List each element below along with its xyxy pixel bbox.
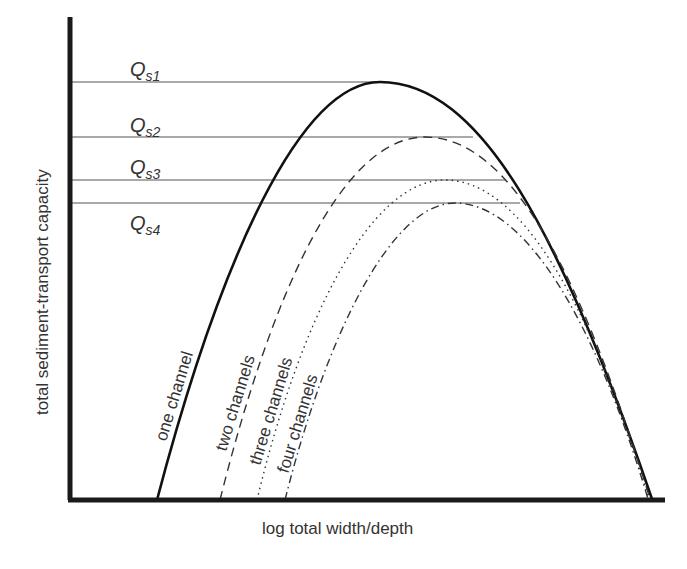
qs1-label: Qs1 xyxy=(130,58,160,84)
qs2-label: Qs2 xyxy=(130,114,161,140)
qs4-label: Qs4 xyxy=(130,212,161,238)
label-two-channels: two channels xyxy=(212,353,259,453)
y-axis-label: total sediment-transport capacity xyxy=(33,169,52,415)
label-one-channel: one channel xyxy=(152,349,197,443)
diagram: Qs1 Qs2 Qs3 Qs4 one channel two channels… xyxy=(0,0,687,569)
qs-labels: Qs1 Qs2 Qs3 Qs4 xyxy=(130,58,161,238)
curve-three-channels xyxy=(257,180,649,500)
curve-four-channels xyxy=(285,203,648,500)
qs3-label: Qs3 xyxy=(130,156,161,182)
x-axis-label: log total width/depth xyxy=(262,519,413,538)
